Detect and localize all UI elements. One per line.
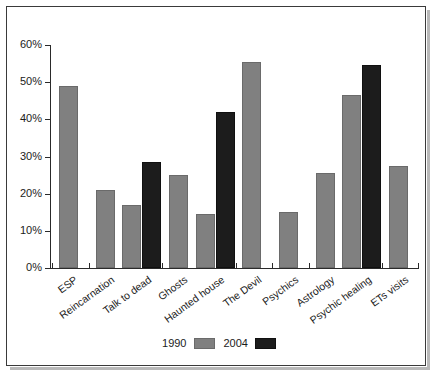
y-tick-label: 60% xyxy=(20,39,42,50)
legend-item-1990: 1990 xyxy=(162,338,214,349)
y-tick-mark xyxy=(45,268,51,269)
x-tick-mark xyxy=(162,263,163,269)
bar-1990 xyxy=(316,173,335,268)
y-tick-label: 30% xyxy=(20,151,42,162)
y-tick-label: 20% xyxy=(20,188,42,199)
x-tick-mark xyxy=(309,263,310,269)
y-tick-mark xyxy=(45,82,51,83)
y-tick-label: 40% xyxy=(20,113,42,124)
y-tick-mark xyxy=(45,157,51,158)
x-tick-mark xyxy=(382,263,383,269)
y-tick-label: 50% xyxy=(20,76,42,87)
bar-1990 xyxy=(122,205,141,268)
black-swatch-icon xyxy=(255,338,276,349)
frame-shadow-right xyxy=(427,10,430,370)
y-tick-mark xyxy=(45,231,51,232)
legend-item-2004: 2004 xyxy=(224,338,276,349)
gray-swatch-icon xyxy=(194,338,215,349)
bar-1990 xyxy=(169,175,188,268)
bar-2004 xyxy=(362,65,381,268)
x-tick-mark xyxy=(52,263,53,269)
x-tick-mark xyxy=(418,263,419,269)
chart-legend: 1990 2004 xyxy=(0,338,438,349)
bar-1990 xyxy=(342,95,361,268)
y-tick-mark xyxy=(45,194,51,195)
x-tick-mark xyxy=(272,263,273,269)
y-tick-mark xyxy=(45,119,51,120)
y-tick-label: 0% xyxy=(26,262,42,273)
bar-1990 xyxy=(59,86,78,268)
bar-1990 xyxy=(279,212,298,268)
y-tick-label: 10% xyxy=(20,225,42,236)
y-tick-mark xyxy=(45,45,51,46)
bar-1990 xyxy=(196,214,215,268)
bar-2004 xyxy=(216,112,235,268)
bar-1990 xyxy=(242,62,261,268)
x-tick-mark xyxy=(236,263,237,269)
bar-2004 xyxy=(142,162,161,268)
legend-label-2004: 2004 xyxy=(224,338,248,349)
x-axis-line xyxy=(50,268,418,269)
legend-label-1990: 1990 xyxy=(162,338,186,349)
x-tick-mark xyxy=(89,263,90,269)
chart-figure: 0%10%20%30%40%50%60% ESPReincarnationTal… xyxy=(0,0,438,383)
bar-1990 xyxy=(96,190,115,268)
bar-1990 xyxy=(389,166,408,268)
